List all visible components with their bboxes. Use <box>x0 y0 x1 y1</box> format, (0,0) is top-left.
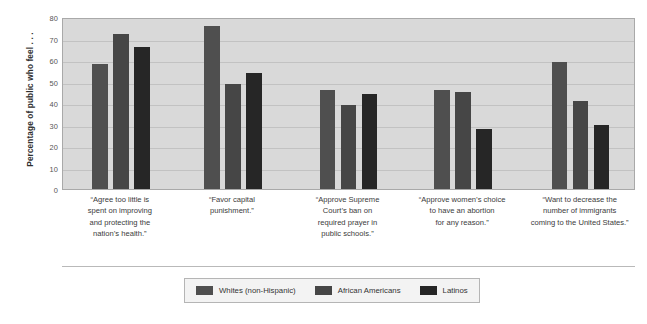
legend-item: Latinos <box>420 286 468 295</box>
x-category-label-line: “Agree too little is <box>61 194 179 205</box>
bar <box>362 94 378 189</box>
x-category-label-line: public schools.” <box>289 228 407 239</box>
bar <box>134 47 150 189</box>
x-category-label: “Agree too little isspent on improvingan… <box>61 194 179 240</box>
x-category-label-line: required prayer in <box>289 217 407 228</box>
bar <box>341 105 357 189</box>
y-tick-label: 0 <box>30 186 58 195</box>
x-category-label-line: spent on improving <box>61 205 179 216</box>
y-tick-label: 10 <box>30 164 58 173</box>
x-category-label: “Approve SupremeCourt’s ban onrequired p… <box>289 194 407 240</box>
x-category-label-line: nation’s health.” <box>61 228 179 239</box>
bar <box>204 26 220 189</box>
bar <box>594 125 610 190</box>
bar <box>225 84 241 189</box>
y-tick-label: 40 <box>30 100 58 109</box>
x-category-label: “Want to decrease thenumber of immigrant… <box>505 194 647 228</box>
y-tick-label: 50 <box>30 78 58 87</box>
separator-rule <box>62 266 635 267</box>
x-category-label-line: Court’s ban on <box>289 205 407 216</box>
y-axis-tick-labels: 80706050403020100 <box>30 18 58 190</box>
bar <box>434 90 450 189</box>
x-category-label-line: “Favor capital <box>177 194 287 205</box>
y-tick-label: 60 <box>30 57 58 66</box>
legend-swatch-icon <box>196 286 213 295</box>
legend-swatch-icon <box>420 286 437 295</box>
x-category-label-line: “Approve Supreme <box>289 194 407 205</box>
x-category-label-line: “Want to decrease the <box>505 194 647 205</box>
y-tick-label: 20 <box>30 143 58 152</box>
legend-label: African Americans <box>338 286 401 295</box>
y-tick-label: 30 <box>30 121 58 130</box>
gridline <box>63 41 634 42</box>
bar <box>113 34 129 189</box>
plot-area <box>62 18 635 190</box>
bar <box>476 129 492 189</box>
x-category-label-line: number of immigrants <box>505 205 647 216</box>
x-category-label-line: punishment.” <box>177 205 287 216</box>
bar <box>320 90 336 189</box>
bar <box>246 73 262 189</box>
x-axis-category-labels: “Agree too little isspent on improvingan… <box>62 194 635 256</box>
legend-label: Whites (non-Hispanic) <box>219 286 296 295</box>
legend-item: Whites (non-Hispanic) <box>196 286 296 295</box>
x-category-label-line: coming to the United States.” <box>505 217 647 228</box>
legend-swatch-icon <box>315 286 332 295</box>
bar <box>552 62 568 189</box>
legend-label: Latinos <box>443 286 468 295</box>
x-category-label: “Favor capitalpunishment.” <box>177 194 287 217</box>
bar <box>573 101 589 189</box>
chart-legend: Whites (non-Hispanic)African AmericansLa… <box>184 278 480 303</box>
x-category-label-line: and protecting the <box>61 217 179 228</box>
bar <box>455 92 471 189</box>
y-tick-label: 70 <box>30 35 58 44</box>
bar <box>92 64 108 189</box>
bar-chart: Percentage of public who feel . . . 8070… <box>0 0 647 324</box>
legend-item: African Americans <box>315 286 401 295</box>
y-tick-label: 80 <box>30 14 58 23</box>
